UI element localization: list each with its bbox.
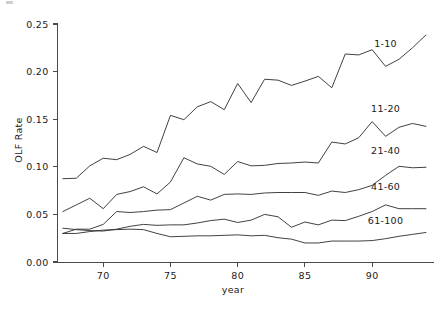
x-axis-tick-label: 90 bbox=[366, 270, 379, 281]
x-axis-tick-label: 80 bbox=[231, 270, 244, 281]
series-label-61-100: 61-100 bbox=[368, 215, 403, 226]
y-axis-tick-label: 0.25 bbox=[26, 19, 48, 30]
x-axis-title: year bbox=[222, 284, 244, 295]
series-line-11-20 bbox=[63, 122, 426, 212]
x-axis-tick-label: 85 bbox=[299, 270, 312, 281]
y-axis-tick-label: 0.10 bbox=[26, 161, 48, 172]
y-axis-tick-label: 0.15 bbox=[26, 114, 48, 125]
line-chart-plot: 0.000.050.100.150.200.25 7075808590 1-10… bbox=[0, 0, 438, 313]
y-axis-tick-label: 0.20 bbox=[26, 66, 48, 77]
x-axis-tick-group: 7075808590 bbox=[97, 262, 379, 281]
series-line-61-100 bbox=[63, 229, 426, 243]
series-group bbox=[63, 35, 426, 243]
y-axis-tick-label: 0.05 bbox=[26, 209, 48, 220]
chart-container: 0.000.050.100.150.200.25 7075808590 1-10… bbox=[0, 0, 438, 313]
y-axis-title: OLF Rate bbox=[13, 117, 24, 162]
y-axis-tick-group: 0.000.050.100.150.200.25 bbox=[26, 19, 57, 268]
series-label-21-40: 21-40 bbox=[371, 145, 400, 156]
y-axis-tick-label: 0.00 bbox=[26, 257, 48, 268]
series-label-41-60: 41-60 bbox=[371, 181, 400, 192]
x-axis-tick-label: 75 bbox=[164, 270, 177, 281]
series-label-1-10: 1-10 bbox=[374, 38, 397, 49]
x-axis-tick-label: 70 bbox=[97, 270, 110, 281]
series-label-11-20: 11-20 bbox=[371, 103, 400, 114]
